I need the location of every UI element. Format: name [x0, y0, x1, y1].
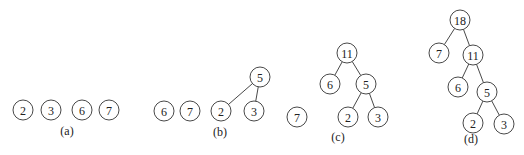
- node-label: 6: [161, 105, 167, 119]
- tree-node-3: 3: [244, 101, 264, 121]
- node-label: 18: [454, 14, 466, 28]
- node-label: 2: [20, 104, 26, 118]
- panel-caption: (a): [60, 124, 73, 138]
- tree-edge: [352, 62, 361, 76]
- huffman-tree-diagram: 2367567231165723187116523 (a)(b)(c)(d): [0, 0, 524, 155]
- panel-caption: (c): [331, 130, 344, 144]
- tree-edge: [369, 93, 374, 107]
- tree-node-6: 6: [72, 100, 92, 120]
- node-label: 11: [467, 49, 479, 63]
- node-label: 5: [484, 86, 490, 100]
- node-label: 3: [501, 118, 507, 132]
- nodes-layer: 2367567231165723187116523: [13, 10, 514, 134]
- tree-node-2: 2: [463, 113, 483, 133]
- tree-node-6: 6: [448, 77, 468, 97]
- tree-node-7: 7: [99, 100, 119, 120]
- tree-node-2: 2: [13, 100, 33, 120]
- tree-node-6: 6: [320, 74, 340, 94]
- captions-layer: (a)(b)(c)(d): [60, 124, 478, 146]
- node-label: 2: [470, 117, 476, 131]
- tree-edge: [477, 101, 483, 114]
- tree-edge: [444, 28, 454, 44]
- node-label: 7: [187, 105, 193, 119]
- tree-edge: [463, 29, 469, 45]
- node-label: 5: [363, 78, 369, 92]
- tree-node-7: 7: [180, 101, 200, 121]
- tree-node-7: 7: [287, 107, 307, 127]
- node-label: 3: [48, 104, 54, 118]
- tree-node-18: 18: [450, 10, 470, 30]
- node-label: 7: [106, 104, 112, 118]
- node-label: 6: [327, 78, 333, 92]
- tree-edge: [462, 64, 469, 78]
- node-label: 7: [294, 111, 300, 125]
- tree-node-2: 2: [338, 107, 358, 127]
- tree-edge: [229, 84, 253, 105]
- node-label: 2: [218, 105, 224, 119]
- tree-edge: [477, 64, 484, 82]
- node-label: 3: [251, 105, 257, 119]
- node-label: 3: [375, 111, 381, 125]
- node-label: 6: [455, 81, 461, 95]
- panel-caption: (b): [213, 125, 227, 139]
- tree-node-5: 5: [356, 74, 376, 94]
- tree-node-11: 11: [463, 45, 483, 65]
- node-label: 2: [345, 111, 351, 125]
- node-label: 7: [436, 47, 442, 61]
- node-label: 5: [257, 71, 263, 85]
- edges-layer: [229, 28, 500, 115]
- tree-node-5: 5: [477, 82, 497, 102]
- tree-node-6: 6: [154, 101, 174, 121]
- tree-edge: [353, 93, 361, 108]
- tree-node-3: 3: [494, 114, 514, 134]
- node-label: 6: [79, 104, 85, 118]
- tree-node-7: 7: [429, 43, 449, 63]
- tree-node-11: 11: [337, 43, 357, 63]
- tree-node-5: 5: [250, 67, 270, 87]
- tree-node-2: 2: [211, 101, 231, 121]
- node-label: 11: [341, 47, 353, 61]
- tree-node-3: 3: [41, 100, 61, 120]
- tree-edge: [492, 101, 500, 115]
- tree-edge: [335, 62, 342, 75]
- tree-edge: [256, 87, 259, 101]
- tree-node-3: 3: [368, 107, 388, 127]
- panel-caption: (d): [464, 132, 478, 146]
